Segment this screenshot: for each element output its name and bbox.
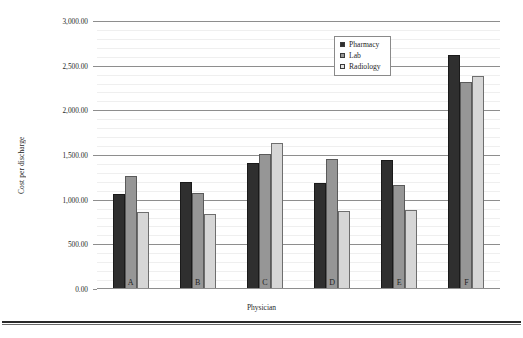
bar-group: [97, 21, 164, 289]
legend-item[interactable]: Radiology: [340, 63, 381, 71]
x-axis-tick-label: E: [397, 278, 402, 287]
bar-radiology-d[interactable]: [338, 211, 350, 289]
y-axis-tick-label: 500.00: [18, 240, 88, 249]
bar-pharmacy-b[interactable]: [180, 182, 192, 289]
bar-lab-e[interactable]: [393, 185, 405, 289]
bar-pharmacy-d[interactable]: [314, 183, 326, 289]
chart-legend: PharmacyLabRadiology: [334, 36, 391, 76]
bar-radiology-e[interactable]: [405, 210, 417, 290]
bar-group: [433, 21, 500, 289]
bar-pharmacy-c[interactable]: [247, 163, 259, 289]
bar-lab-a[interactable]: [125, 176, 137, 289]
plot-area: [97, 21, 500, 289]
x-axis-tick-label: F: [464, 278, 468, 287]
bar-radiology-f[interactable]: [472, 76, 484, 289]
x-axis-tick-label: D: [329, 278, 335, 287]
y-axis-tick-mark: [93, 289, 97, 290]
bar-chart-figure: Cost per discharge 0.00500.001,000.001,5…: [0, 0, 523, 338]
y-axis-tick-label: 2,000.00: [18, 106, 88, 115]
legend-swatch-icon: [340, 42, 345, 47]
legend-item-label: Lab: [349, 52, 361, 60]
legend-swatch-icon: [340, 53, 345, 58]
x-axis-baseline: [97, 288, 500, 289]
legend-item[interactable]: Pharmacy: [340, 41, 381, 49]
bar-radiology-b[interactable]: [204, 214, 216, 289]
bar-group: [164, 21, 231, 289]
y-axis-tick-label: 1,000.00: [18, 195, 88, 204]
x-axis-tick-label: B: [195, 278, 200, 287]
bar-lab-f[interactable]: [460, 82, 472, 289]
x-axis-tick-label: C: [262, 278, 267, 287]
bar-pharmacy-a[interactable]: [113, 194, 125, 289]
bar-radiology-c[interactable]: [271, 143, 283, 290]
bar-radiology-a[interactable]: [137, 212, 149, 289]
bar-lab-c[interactable]: [259, 154, 271, 289]
bar-groups: [97, 21, 500, 289]
legend-item-label: Pharmacy: [349, 41, 379, 49]
legend-item[interactable]: Lab: [340, 52, 381, 60]
bar-pharmacy-f[interactable]: [448, 55, 460, 289]
bar-lab-d[interactable]: [326, 159, 338, 289]
bar-group: [231, 21, 298, 289]
bar-pharmacy-e[interactable]: [381, 160, 393, 289]
y-axis-tick-label: 0.00: [18, 285, 88, 294]
y-axis-tick-label: 1,500.00: [18, 151, 88, 160]
legend-swatch-icon: [340, 64, 345, 69]
y-axis-tick-label: 3,000.00: [18, 17, 88, 26]
bar-lab-b[interactable]: [192, 193, 204, 289]
bottom-divider-rule: [2, 321, 521, 323]
y-axis-tick-label: 2,500.00: [18, 61, 88, 70]
bottom-divider-rule-thin: [2, 324, 521, 325]
legend-item-label: Radiology: [349, 63, 381, 71]
x-axis-tick-label: A: [128, 278, 134, 287]
x-axis-title: Physician: [0, 303, 523, 312]
